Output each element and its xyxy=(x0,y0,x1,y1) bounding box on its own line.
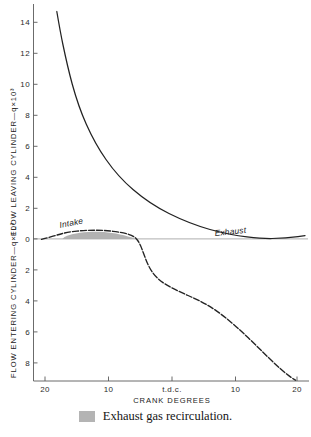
chart-canvas: 14 12 10 8 6 4 2 0 2 4 6 8 20 10 t.d.c. … xyxy=(0,0,311,437)
y-axis-ticks-upper xyxy=(34,22,38,239)
x-tick-label-tdc: t.d.c. xyxy=(162,385,182,394)
figure-container: 14 12 10 8 6 4 2 0 2 4 6 8 20 10 t.d.c. … xyxy=(0,0,311,437)
y-tick-label-neg2: 2 xyxy=(25,266,30,275)
y-axis-title-upper: FLOW LEAVING CYLINDER—q×10³ xyxy=(9,88,18,236)
y-tick-label-neg6: 6 xyxy=(25,328,30,337)
legend-label: Exhaust gas recirculation. xyxy=(103,409,232,424)
x-axis-title: CRANK DEGREES xyxy=(133,396,211,405)
y-tick-label-10: 10 xyxy=(20,80,30,89)
y-tick-label-12: 12 xyxy=(20,49,30,58)
y-tick-label-6: 6 xyxy=(25,142,30,151)
x-axis-ticks xyxy=(45,377,297,382)
y-axis-ticks-lower xyxy=(34,270,38,363)
chart-legend: Exhaust gas recirculation. xyxy=(0,409,311,424)
y-tick-label-2: 2 xyxy=(25,204,30,213)
series-line-intake xyxy=(42,230,296,380)
y-tick-label-neg8: 8 xyxy=(25,359,30,368)
y-axis-title-lower: FLOW ENTERING CYLINDER—q×10³ xyxy=(9,222,18,378)
x-tick-label-left-10: 10 xyxy=(104,385,114,394)
y-tick-label-0: 0 xyxy=(25,235,30,244)
shaded-area-swatch xyxy=(79,411,95,422)
x-tick-label-right-10: 10 xyxy=(231,385,241,394)
x-tick-label-right-20: 20 xyxy=(292,385,302,394)
y-tick-label-4: 4 xyxy=(25,173,30,182)
series-line-exhaust xyxy=(57,12,305,239)
y-tick-label-8: 8 xyxy=(25,111,30,120)
y-tick-label-neg4: 4 xyxy=(25,297,30,306)
x-tick-label-left-20: 20 xyxy=(40,385,50,394)
y-tick-label-14: 14 xyxy=(20,18,30,27)
intake-curve-label: Intake xyxy=(58,216,84,230)
